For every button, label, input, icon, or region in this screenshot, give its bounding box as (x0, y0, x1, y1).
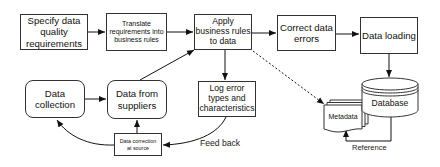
node-label: Data correction at source (117, 138, 159, 150)
node-data-collection: Data collection (25, 80, 85, 118)
node-label: Metadata (328, 113, 357, 120)
node-data-loading: Data loading (360, 17, 418, 54)
node-label: Correct data errors (278, 22, 335, 44)
node-label: Data collection (26, 88, 84, 110)
edge-suppliers-to-apply (140, 50, 194, 80)
edge-correction-to-collection (57, 120, 114, 145)
node-log-error-types: Log error types and characteristics (198, 81, 256, 117)
node-label: Data from suppliers (108, 88, 166, 110)
node-label: Data loading (362, 30, 416, 41)
data-quality-flowchart: Specify data quality requirements Transl… (0, 0, 440, 167)
edge-label-feed-back: Feed back (200, 138, 240, 148)
metadata-label: Metadata (324, 107, 362, 125)
node-translate-requirements: Translate requirements into business rul… (106, 13, 167, 51)
database-label: Database (362, 94, 418, 112)
node-data-correction-at-source: Data correction at source (114, 133, 162, 156)
edge-apply-to-metadata (253, 51, 324, 104)
node-label: Apply business rules to data (195, 17, 251, 47)
node-data-from-suppliers: Data from suppliers (107, 80, 167, 119)
node-label: Log error types and characteristics (199, 84, 255, 114)
node-label: Specify data quality requirements (21, 15, 87, 48)
node-label: Database (372, 98, 409, 108)
node-apply-business-rules: Apply business rules to data (194, 14, 252, 50)
node-specify-requirements: Specify data quality requirements (20, 14, 88, 50)
edge-label-reference: Reference (352, 143, 387, 152)
node-label: Translate requirements into business rul… (107, 20, 166, 44)
node-correct-data-errors: Correct data errors (277, 15, 336, 51)
